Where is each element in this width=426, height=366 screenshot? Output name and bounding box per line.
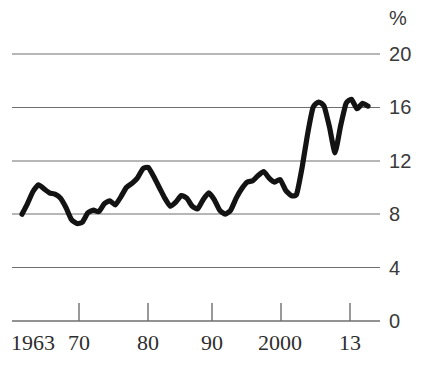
y-axis-label-0: 0	[389, 311, 400, 331]
y-axis-label-4: 4	[389, 258, 400, 278]
y-axis-label-16: 16	[389, 97, 412, 117]
y-axis-label-12: 12	[389, 151, 412, 171]
x-axis-label-80: 80	[137, 332, 159, 354]
line-chart-plot	[0, 0, 426, 366]
y-axis-label-20: 20	[389, 44, 412, 64]
chart-container: % 20 16 12 8 4 0 1963 70 80 90 2000 13	[0, 0, 426, 366]
x-axis-label-70: 70	[68, 332, 90, 354]
x-axis-label-2000: 2000	[258, 332, 302, 354]
y-axis-unit-label: %	[389, 8, 407, 28]
gridlines	[12, 54, 380, 268]
y-axis-label-8: 8	[389, 204, 400, 224]
x-axis-ticks	[79, 303, 350, 321]
x-axis-label-90: 90	[201, 332, 223, 354]
x-axis-label-13: 13	[339, 332, 361, 354]
x-axis-label-1963: 1963	[11, 332, 55, 354]
